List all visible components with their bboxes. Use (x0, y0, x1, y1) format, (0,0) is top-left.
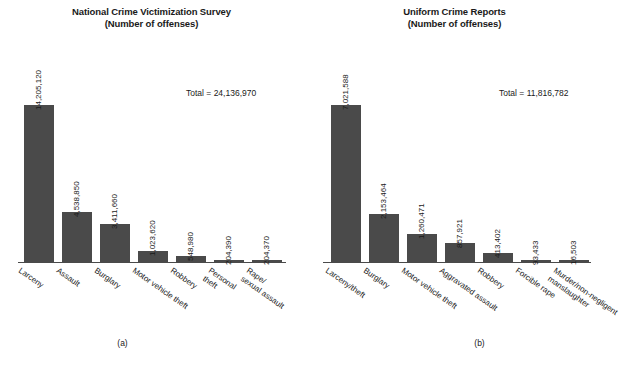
bar (62, 212, 92, 262)
bar-value-label: 1,023,620 (148, 220, 157, 256)
bar-value-label: 857,921 (455, 219, 464, 248)
category-label-line: Burglary (93, 266, 123, 291)
bar-value-label: 204,390 (224, 236, 233, 265)
category-label: Rape/sexual assault (239, 266, 291, 311)
bar (100, 224, 130, 262)
chart-panel-a: National Crime Victimization Survey (Num… (0, 0, 303, 366)
category-label-line: Robbery (169, 266, 199, 291)
bar-value-label: 2,153,464 (379, 183, 388, 219)
category-label: Larceny (17, 266, 46, 290)
bar-value-label: 7,021,588 (341, 74, 350, 110)
category-label-line: Larceny (17, 266, 46, 290)
category-label-line: Robbery (476, 266, 506, 291)
category-label-line: Larceny/theft (324, 266, 367, 300)
category-label: Burglary (362, 266, 392, 291)
panel-caption-b: (b) (353, 338, 606, 348)
bar-value-label: 413,402 (493, 229, 502, 258)
category-label: Assault (55, 266, 82, 289)
category-label-line: Burglary (362, 266, 392, 291)
x-axis-line (18, 262, 286, 263)
plot-area-a: 14,205,120Larceny4,538,850Assault3,411,6… (0, 0, 303, 366)
plot-area-b: 7,021,588Larceny/theft2,153,464Burglary1… (303, 0, 606, 366)
category-label: Larceny/theft (324, 266, 367, 300)
panel-caption-a: (a) (0, 338, 303, 348)
bar-value-label: 14,205,120 (34, 70, 43, 110)
category-label: Personaltheft (201, 266, 238, 300)
category-label: Robbery (476, 266, 506, 291)
bar-value-label: 16,503 (569, 241, 578, 265)
category-label: Robbery (169, 266, 199, 291)
bar-value-label: 204,370 (262, 236, 271, 265)
bar-value-label: 1,260,471 (417, 203, 426, 239)
bar-value-label: 93,433 (531, 241, 540, 265)
chart-panel-b: Uniform Crime Reports (Number of offense… (303, 0, 606, 366)
bar (24, 105, 54, 262)
category-label-line: Assault (55, 266, 82, 289)
bar-value-label: 548,980 (186, 232, 195, 261)
category-label: Murder/non-negligentmanslaughter (546, 266, 619, 325)
x-axis-line (323, 262, 591, 263)
bar-value-label: 4,538,850 (72, 181, 81, 217)
bar-value-label: 3,411,660 (110, 194, 119, 229)
bar (369, 214, 399, 262)
category-label: Burglary (93, 266, 123, 291)
bar (331, 105, 361, 262)
